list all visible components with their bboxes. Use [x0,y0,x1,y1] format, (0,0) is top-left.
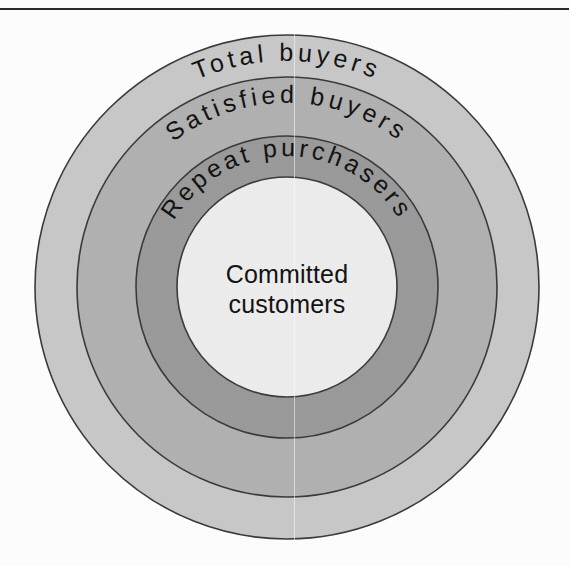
figure-root: Total buyers Satisfied buyers Repeat pur… [0,0,569,566]
concentric-rings-diagram: Total buyers Satisfied buyers Repeat pur… [0,0,569,566]
center-label-line-1: Committed [226,260,349,288]
center-label-line-2: customers [228,290,345,318]
